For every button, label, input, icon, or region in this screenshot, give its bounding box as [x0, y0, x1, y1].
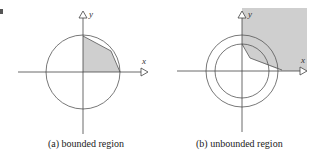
y-label-a: y — [88, 9, 93, 19]
x-label-b: x — [300, 55, 305, 65]
caption-a: (a) bounded region — [48, 138, 124, 149]
x-axis-arrow-a — [141, 68, 148, 76]
diagram-canvas: y x y x — [0, 0, 319, 156]
shaded-bounded-region — [83, 36, 120, 72]
y-axis-arrow-a — [79, 11, 87, 18]
figure-b-unbounded: y x — [177, 8, 307, 132]
figure-a-bounded: y x — [18, 9, 148, 134]
x-label-a: x — [141, 56, 146, 66]
y-label-b: y — [247, 9, 252, 19]
caption-b: (b) unbounded region — [196, 138, 283, 149]
